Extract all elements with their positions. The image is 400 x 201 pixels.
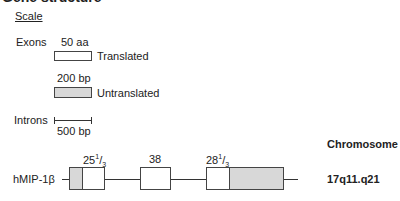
exon-2-translated (140, 167, 171, 190)
untranslated-label: Untranslated (97, 87, 159, 99)
untranslated-size-label: 200 bp (57, 72, 91, 84)
exon-2-size: 38 (149, 153, 161, 165)
exon-1-translated (82, 167, 105, 190)
translated-label: Translated (97, 50, 149, 62)
untranslated-legend-box (54, 87, 92, 98)
scale-title: Scale (15, 10, 43, 22)
introns-label: Introns (14, 114, 48, 126)
exon-1-untranslated (69, 167, 83, 190)
exon-3-untranslated (229, 167, 284, 190)
intron-size-label: 500 bp (57, 125, 91, 137)
exon-3-translated (206, 167, 230, 190)
translated-size-label: 50 aa (61, 36, 89, 48)
exon-1-size: 251/3 (83, 153, 106, 168)
exon-3-size: 281/3 (206, 153, 229, 168)
translated-legend-box (54, 51, 92, 61)
chromosome-header: Chromosome (327, 138, 398, 150)
figure-heading: Gene structure (2, 0, 102, 5)
exons-label: Exons (16, 36, 47, 48)
gene-name: hMIP-1β (13, 173, 55, 185)
chromosome-location: 17q11.q21 (327, 173, 380, 185)
